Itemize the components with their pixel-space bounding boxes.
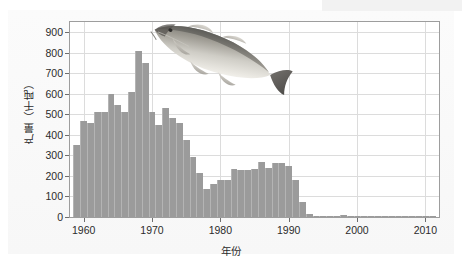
bar-1983 [237, 170, 244, 217]
plot-area [70, 22, 439, 217]
x-tick-mark [220, 218, 221, 222]
y-tick-label: 500 [35, 109, 63, 119]
bar-1989 [278, 163, 285, 217]
plot-frame [69, 21, 440, 218]
bar-1969 [142, 63, 149, 217]
bar-1984 [244, 170, 251, 217]
bar-1996 [326, 216, 333, 217]
bar-1971 [155, 125, 162, 217]
bar-2008 [408, 216, 415, 217]
bar-2010 [422, 216, 429, 217]
x-tick-label: 1960 [64, 225, 104, 236]
bar-2005 [388, 216, 395, 217]
bar-1997 [333, 216, 340, 217]
bar-1988 [272, 163, 279, 217]
x-axis-label: 年份 [0, 243, 462, 258]
bar-1993 [306, 214, 313, 217]
gridline-vertical [357, 22, 358, 217]
x-tick-label: 2000 [337, 225, 377, 236]
bar-1975 [183, 140, 190, 217]
y-tick-mark [65, 73, 69, 74]
bar-1973 [169, 118, 176, 217]
y-tick-label: 200 [35, 171, 63, 181]
bar-1972 [162, 108, 169, 217]
y-tick-mark [65, 196, 69, 197]
y-axis-label: 产量（千吨） [21, 78, 37, 144]
bar-1994 [313, 216, 320, 217]
bar-1968 [135, 51, 142, 217]
y-tick-mark [65, 135, 69, 136]
x-tick-mark [84, 218, 85, 222]
bar-2007 [401, 216, 408, 217]
gridline-horizontal [70, 94, 439, 95]
y-tick-mark [65, 155, 69, 156]
bar-1964 [108, 94, 115, 217]
bar-1978 [203, 189, 210, 217]
bar-2009 [415, 216, 422, 217]
bar-1974 [176, 123, 183, 217]
bar-1987 [265, 168, 272, 217]
bar-1965 [114, 105, 121, 217]
bar-1990 [285, 166, 292, 217]
bar-1998 [340, 215, 347, 217]
y-tick-label: 900 [35, 27, 63, 37]
bar-1979 [210, 184, 217, 217]
bar-1999 [347, 216, 354, 217]
top-light-band [322, 0, 462, 11]
bar-2001 [360, 216, 367, 217]
gridline-horizontal [70, 32, 439, 33]
x-tick-label: 2010 [405, 225, 445, 236]
y-tick-label: 100 [35, 191, 63, 201]
y-tick-mark [65, 94, 69, 95]
y-tick-mark [65, 53, 69, 54]
y-tick-label: 300 [35, 150, 63, 160]
bar-2011 [429, 216, 436, 217]
x-tick-mark [289, 218, 290, 222]
bar-1963 [101, 112, 108, 217]
bar-1977 [196, 173, 203, 217]
x-tick-label: 1980 [200, 225, 240, 236]
y-tick-mark [65, 217, 69, 218]
bar-1976 [190, 157, 197, 217]
y-tick-label: 700 [35, 68, 63, 78]
x-tick-label: 1990 [269, 225, 309, 236]
x-tick-mark [357, 218, 358, 222]
gridline-horizontal [70, 73, 439, 74]
bar-1962 [94, 112, 101, 217]
bar-1995 [319, 216, 326, 217]
y-tick-label: 0 [35, 212, 63, 222]
gridline-horizontal [70, 53, 439, 54]
bar-2003 [374, 216, 381, 217]
bar-1961 [87, 123, 94, 217]
y-tick-label: 400 [35, 130, 63, 140]
y-tick-label: 800 [35, 48, 63, 58]
bar-1966 [121, 112, 128, 217]
bar-1991 [292, 180, 299, 217]
bar-2000 [354, 216, 361, 217]
bar-1960 [80, 121, 87, 217]
y-tick-mark [65, 176, 69, 177]
chart-figure: 0100200300400500600700800900196019701980… [0, 0, 462, 273]
bar-2004 [381, 216, 388, 217]
bar-1982 [231, 169, 238, 217]
y-tick-label: 600 [35, 89, 63, 99]
y-tick-mark [65, 32, 69, 33]
bar-1981 [224, 180, 231, 217]
bar-1967 [128, 92, 135, 217]
bar-1986 [258, 162, 265, 217]
bar-1985 [251, 169, 258, 217]
x-tick-mark [425, 218, 426, 222]
bar-1970 [149, 112, 156, 217]
bar-1992 [299, 202, 306, 217]
x-tick-label: 1970 [132, 225, 172, 236]
bar-2002 [367, 216, 374, 217]
y-tick-mark [65, 114, 69, 115]
gridline-vertical [425, 22, 426, 217]
bar-2006 [395, 216, 402, 217]
bar-1980 [217, 180, 224, 217]
bar-1959 [73, 145, 80, 217]
x-tick-mark [152, 218, 153, 222]
